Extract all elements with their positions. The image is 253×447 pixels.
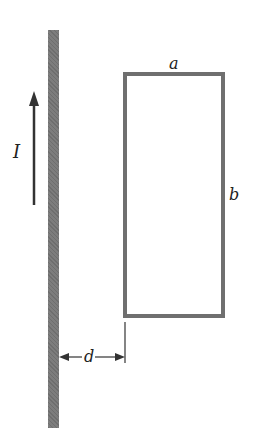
distance-arrow-left-icon — [59, 353, 69, 361]
distance-arrow-right-icon — [115, 353, 125, 361]
distance-label: d — [84, 349, 94, 365]
current-label: I — [13, 143, 20, 161]
width-label: a — [169, 56, 179, 72]
annotation-arrows — [0, 0, 253, 447]
current-arrow-head-icon — [29, 91, 39, 106]
height-label: b — [229, 187, 239, 203]
